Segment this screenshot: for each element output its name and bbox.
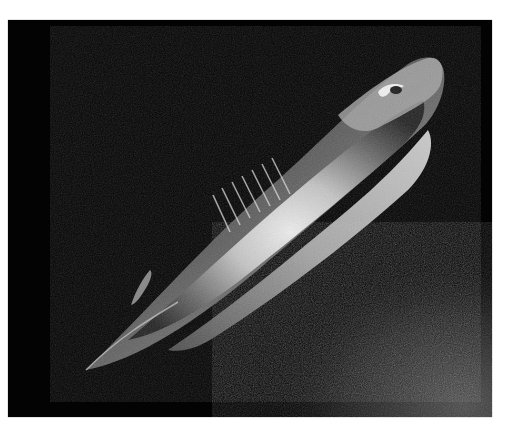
shark-photo: Sevengill shark photographed underwater …	[8, 20, 492, 417]
remora-fish	[131, 270, 151, 305]
shark-illustration	[8, 20, 492, 417]
